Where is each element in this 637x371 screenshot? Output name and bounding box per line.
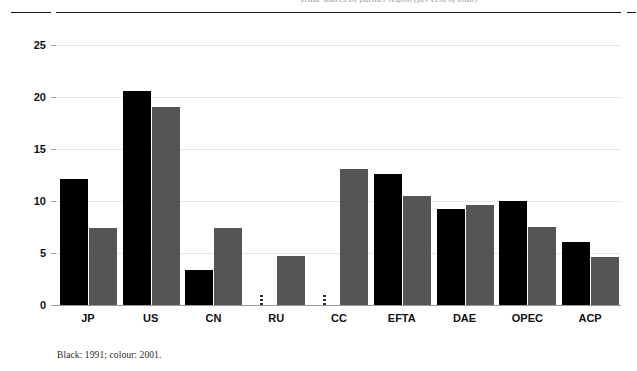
bar-efta-1991 xyxy=(374,174,402,305)
bar-group-cn: CN xyxy=(185,45,242,305)
plot-area: 0510152025JPUSCNRUCCEFTADAEOPECACP xyxy=(56,45,621,305)
x-axis-category-label: EFTA xyxy=(372,313,432,324)
bar-cc-1991 xyxy=(323,295,326,305)
bar-cn-2001 xyxy=(214,228,242,305)
bar-jp-2001 xyxy=(89,228,117,305)
bar-opec-2001 xyxy=(528,227,556,305)
y-axis-tick-label: 5 xyxy=(16,248,46,259)
gridline-0 xyxy=(56,305,621,306)
y-tick-mark-5 xyxy=(51,253,56,254)
x-axis-category-label: CC xyxy=(309,313,369,324)
y-axis-tick-label: 10 xyxy=(16,196,46,207)
x-axis-category-label: CN xyxy=(183,313,243,324)
chart-caption: Black: 1991; colour: 2001. xyxy=(57,350,161,360)
bar-acp-2001 xyxy=(591,257,619,305)
x-axis-category-label: ACP xyxy=(560,313,620,324)
y-axis-tick-label: 0 xyxy=(16,300,46,311)
bar-dae-1991 xyxy=(437,209,465,305)
bar-group-opec: OPEC xyxy=(499,45,556,305)
y-tick-mark-25 xyxy=(51,45,56,46)
bar-jp-1991 xyxy=(60,179,88,305)
bar-dae-2001 xyxy=(466,205,494,305)
bar-cn-1991 xyxy=(185,270,213,305)
x-axis-category-label: RU xyxy=(246,313,306,324)
x-axis-category-label: OPEC xyxy=(497,313,557,324)
bar-group-dae: DAE xyxy=(437,45,494,305)
bar-group-us: US xyxy=(123,45,180,305)
x-axis-category-label: JP xyxy=(58,313,118,324)
bar-efta-2001 xyxy=(403,196,431,305)
bar-group-cc: CC xyxy=(311,45,368,305)
bar-group-efta: EFTA xyxy=(374,45,431,305)
bar-opec-1991 xyxy=(499,201,527,305)
bar-group-acp: ACP xyxy=(562,45,619,305)
bar-group-ru: RU xyxy=(248,45,305,305)
y-axis-tick-label: 20 xyxy=(16,92,46,103)
bar-group-jp: JP xyxy=(60,45,117,305)
y-tick-mark-20 xyxy=(51,97,56,98)
bar-us-2001 xyxy=(152,107,180,305)
bar-cc-2001 xyxy=(340,169,368,305)
bar-ru-2001 xyxy=(277,256,305,305)
x-axis-category-label: DAE xyxy=(435,313,495,324)
x-axis-category-label: US xyxy=(121,313,181,324)
y-tick-mark-10 xyxy=(51,201,56,202)
y-axis-tick-label: 15 xyxy=(16,144,46,155)
y-tick-mark-0 xyxy=(51,305,56,306)
bar-chart: 0510152025JPUSCNRUCCEFTADAEOPECACP xyxy=(0,0,637,371)
bar-acp-1991 xyxy=(562,242,590,305)
y-axis-tick-label: 25 xyxy=(16,40,46,51)
bar-us-1991 xyxy=(123,91,151,305)
bar-ru-1991 xyxy=(260,295,263,305)
y-tick-mark-15 xyxy=(51,149,56,150)
